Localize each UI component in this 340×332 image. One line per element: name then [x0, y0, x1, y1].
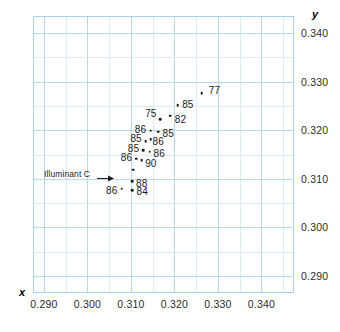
- grid-line-horizontal-minor: [33, 106, 294, 107]
- illuminant-c-arrow-icon: [97, 175, 114, 182]
- y-tick-label: 0.340: [301, 27, 328, 39]
- data-point: [140, 159, 143, 162]
- y-tick-label: 0.330: [301, 76, 328, 88]
- grid-line-horizontal-minor: [33, 57, 294, 58]
- grid-line-horizontal-major: [33, 33, 294, 34]
- data-point: [131, 180, 134, 183]
- y-tick-label: 0.320: [301, 124, 328, 136]
- data-point: [177, 104, 180, 107]
- x-tick-label: 0.340: [248, 298, 275, 310]
- plot-border-bottom: [33, 292, 294, 293]
- y-tick-label: 0.310: [301, 173, 328, 185]
- x-tick-label: 0.330: [204, 298, 231, 310]
- data-point: [150, 129, 153, 132]
- data-point-label: 86: [106, 184, 117, 195]
- data-point-label: 90: [145, 157, 156, 168]
- grid-line-horizontal-minor: [33, 252, 294, 253]
- plot-border-top: [33, 16, 294, 17]
- x-tick-label: 0.320: [161, 298, 188, 310]
- grid-line-horizontal-minor: [33, 203, 294, 204]
- data-point: [142, 149, 145, 152]
- data-point: [157, 130, 160, 133]
- y-tick-label: 0.300: [301, 221, 328, 233]
- data-point-label: 77: [209, 84, 220, 95]
- data-point: [135, 158, 138, 161]
- grid-line-horizontal-major: [33, 82, 294, 83]
- data-point-label: 82: [175, 113, 186, 124]
- data-point-label: 84: [137, 186, 148, 197]
- x-tick-label: 0.300: [74, 298, 101, 310]
- data-point-label: 85: [182, 99, 193, 110]
- x-tick-label: 0.290: [30, 298, 57, 310]
- x-axis-label: x: [19, 286, 25, 298]
- x-tick-label: 0.310: [117, 298, 144, 310]
- plot-border-left: [33, 16, 34, 293]
- data-point: [169, 114, 172, 117]
- data-point-label: 75: [145, 108, 156, 119]
- data-point: [159, 118, 162, 121]
- data-point: [132, 168, 135, 171]
- grid-line-horizontal-major: [33, 227, 294, 228]
- data-point: [200, 92, 203, 95]
- y-axis-label: y: [312, 8, 318, 20]
- chromaticity-scatter-chart: y x 0.2900.3000.3100.3200.3300.3400.2900…: [0, 0, 340, 332]
- data-point-label: 86: [121, 152, 132, 163]
- data-point: [144, 140, 147, 143]
- grid-line-horizontal-major: [33, 276, 294, 277]
- data-point: [120, 187, 123, 190]
- data-point-label: 86: [153, 135, 164, 146]
- data-point: [131, 189, 134, 192]
- data-point: [148, 150, 151, 153]
- y-tick-label: 0.290: [301, 270, 328, 282]
- illuminant-c-annotation-label: Illuminant C: [44, 169, 90, 179]
- plot-border-right: [293, 16, 294, 293]
- data-point-label: 85: [163, 128, 174, 139]
